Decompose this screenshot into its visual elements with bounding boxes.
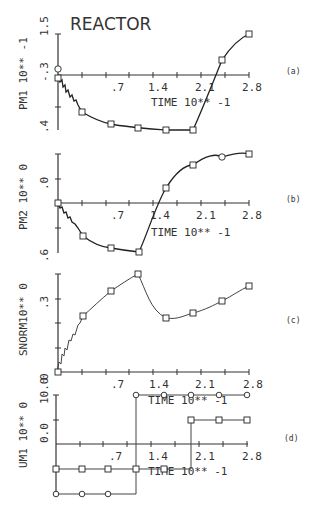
x-tick-label: 2.1 — [195, 81, 215, 94]
y-scale-mid: .3 — [38, 296, 51, 309]
y-scale-top: 1.5 — [38, 16, 51, 36]
x-tick-label: .7 — [111, 81, 124, 94]
x-axis-label: TIME 10** -1 — [151, 226, 230, 239]
chart-title: REACTOR — [70, 14, 152, 34]
reactor-figure: REACTOR .7 1.4 2.1 2.8 TIME 10** -1 (a) … — [0, 0, 313, 512]
y-scale-bottom: .4 — [38, 119, 51, 133]
x-axis-label-c: TIME 10** -1 — [148, 394, 227, 407]
x-tick-label: 2.8 — [242, 450, 262, 463]
y-axis-label: SNORM10** 0 — [17, 283, 30, 356]
x-tick-label: 1.4 — [148, 81, 168, 94]
x-tick-label: 2.8 — [243, 378, 263, 391]
y-scale-top: .6 — [38, 249, 51, 262]
x-tick-label: 2.1 — [196, 209, 216, 222]
panel-label: (a) — [286, 67, 300, 76]
snorm-curve — [57, 274, 249, 372]
y-scale-mid: .0 — [38, 177, 51, 190]
y-axis-label: UM1 10** 0 — [17, 402, 30, 468]
y-axis-label: PM1 10** -1 — [17, 37, 30, 110]
y-scale-top: 10.0 — [38, 378, 51, 405]
x-tick-label: .7 — [111, 378, 124, 391]
panel-a: .7 1.4 2.1 2.8 TIME 10** -1 (a) PM1 10**… — [17, 16, 300, 133]
x-axis-label: TIME 10** -1 — [148, 465, 227, 478]
x-tick-label: .7 — [109, 450, 122, 463]
panel-d: .7 1.4 2.1 2.8 TIME 10** -1 TIME 10** -1… — [17, 378, 298, 497]
x-tick-label: 2.8 — [242, 209, 262, 222]
y-scale-mid: 0.0 — [38, 423, 51, 443]
x-tick-label: 2.1 — [195, 378, 215, 391]
panel-label: (b) — [286, 195, 300, 204]
x-axis-label: TIME 10** -1 — [151, 96, 230, 109]
x-tick-label: 2.1 — [195, 450, 215, 463]
x-tick-label: 2.8 — [242, 81, 262, 94]
panel-label: (d) — [284, 434, 298, 443]
y-scale-mid: -.3 — [38, 62, 51, 82]
x-tick-label: 1.4 — [148, 450, 168, 463]
panel-c: .7 1.4 2.1 2.8 (c) SNORM10** 0 .6 .3 0 — [17, 249, 300, 391]
y-axis-label: PM2 10** 0 — [17, 164, 30, 230]
x-tick-label: 1.4 — [149, 378, 169, 391]
x-tick-label: .7 — [111, 209, 124, 222]
panel-b: .7 1.4 2.1 2.8 TIME 10** -1 (b) PM2 10**… — [17, 151, 300, 255]
panel-label: (c) — [286, 316, 300, 325]
